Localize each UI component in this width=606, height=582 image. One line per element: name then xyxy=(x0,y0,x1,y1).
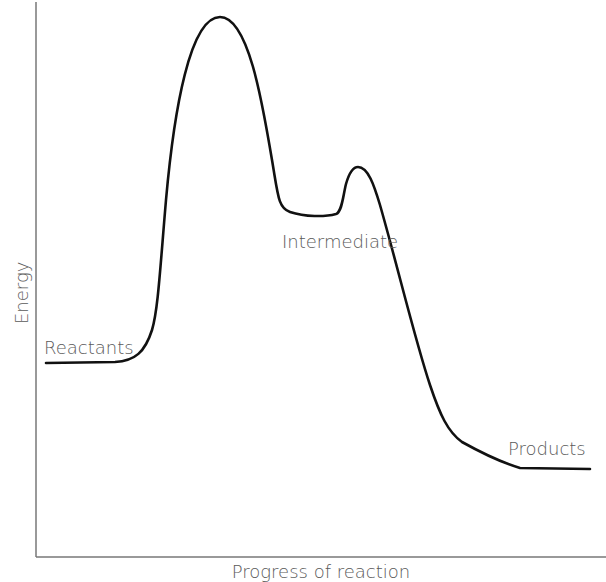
intermediate-label: Intermediate xyxy=(282,233,398,251)
products-label: Products xyxy=(508,440,586,458)
x-axis-label: Progress of reaction xyxy=(0,563,606,581)
y-axis-label: Energy xyxy=(13,264,31,324)
reactants-label: Reactants xyxy=(44,339,134,357)
